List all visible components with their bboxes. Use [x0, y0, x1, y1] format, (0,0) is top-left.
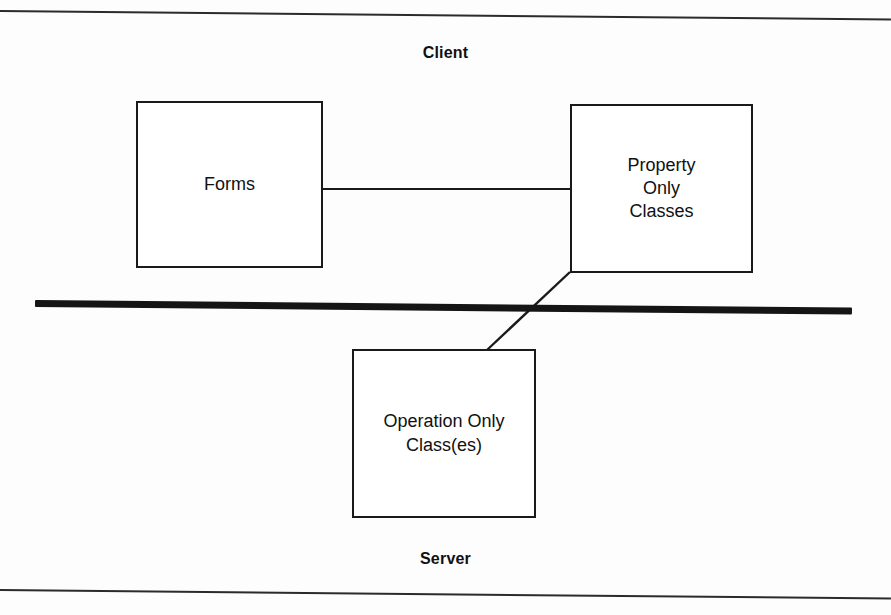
tier-label-server: Server: [0, 550, 891, 568]
client-server-divider-bar: [35, 300, 852, 315]
diagram-page: Client Forms Property Only Classes Opera…: [0, 0, 891, 615]
node-label-forms: Forms: [198, 173, 261, 196]
page-rule-bottom: [0, 589, 891, 600]
node-label-property-only-classes: Property Only Classes: [621, 154, 701, 223]
node-box-property-only-classes[interactable]: Property Only Classes: [570, 104, 753, 273]
node-box-forms[interactable]: Forms: [136, 101, 323, 268]
page-rule-top: [0, 10, 891, 21]
node-box-operation-only-classes[interactable]: Operation Only Class(es): [352, 349, 536, 518]
connector-forms-to-property-only-classes: [322, 188, 571, 190]
tier-label-client: Client: [0, 44, 891, 62]
node-label-operation-only-classes: Operation Only Class(es): [377, 410, 510, 456]
